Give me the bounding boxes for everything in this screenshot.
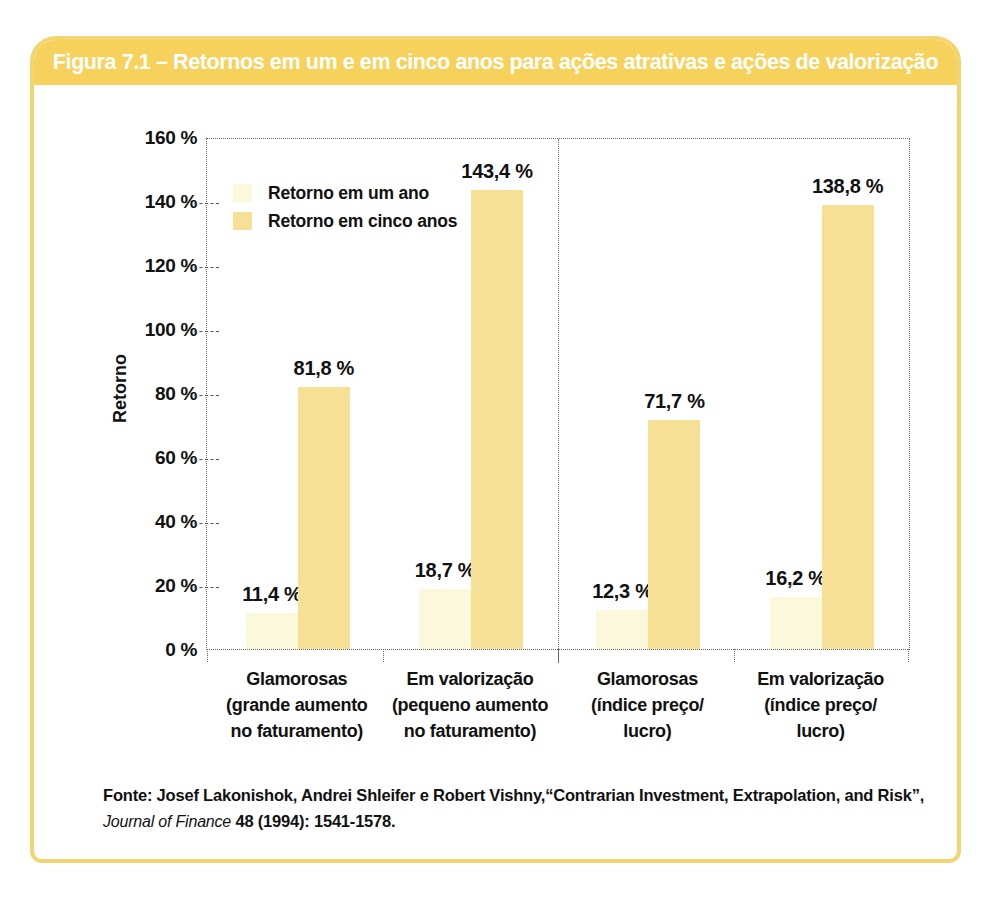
bar-five-years bbox=[648, 420, 700, 649]
bar-value-label: 16,2 % bbox=[765, 567, 825, 590]
category-label-line: Em valorização bbox=[392, 666, 548, 692]
y-tick-mark bbox=[194, 459, 219, 460]
bar-value-label: 11,4 % bbox=[242, 583, 301, 606]
category-label-line: Glamorosas bbox=[591, 666, 704, 692]
y-tick-mark bbox=[194, 395, 219, 396]
bar-one-year bbox=[596, 610, 648, 649]
figure-title: Figura 7.1 – Retornos em um e em cinco a… bbox=[53, 50, 938, 75]
legend-label-one-year: Retorno em um ano bbox=[268, 183, 429, 204]
x-tick-mark bbox=[734, 649, 735, 662]
bar-value-label: 143,4 % bbox=[461, 160, 532, 183]
y-tick-mark bbox=[194, 267, 219, 268]
y-tick-label: 20 % bbox=[117, 574, 197, 598]
x-tick-mark bbox=[383, 649, 384, 662]
category-label: Glamorosas(índice preço/lucro) bbox=[591, 666, 704, 744]
y-tick-mark bbox=[194, 203, 219, 204]
y-tick-label: 60 % bbox=[117, 446, 197, 470]
category-label-line: Glamorosas bbox=[226, 666, 368, 692]
figure-title-banner: Figura 7.1 – Retornos em um e em cinco a… bbox=[34, 40, 957, 85]
category-label-line: no faturamento) bbox=[226, 718, 368, 744]
x-tick-mark bbox=[207, 649, 208, 662]
source-line-2: Journal of Finance 48 (1994): 1541-1578. bbox=[103, 808, 931, 835]
source-note: Fonte: Josef Lakonishok, Andrei Shleifer… bbox=[103, 782, 931, 835]
legend: Retorno em um ano Retorno em cinco anos bbox=[233, 179, 457, 235]
y-tick-mark bbox=[194, 523, 219, 524]
legend-item-one-year: Retorno em um ano bbox=[233, 179, 457, 207]
category-label-line: no faturamento) bbox=[392, 718, 548, 744]
y-tick-label: 0 % bbox=[117, 638, 197, 662]
category-label-line: (índice preço/ bbox=[591, 692, 704, 718]
category-label-line: lucro) bbox=[757, 718, 884, 744]
panel-divider-line bbox=[558, 139, 559, 663]
y-tick-label: 100 % bbox=[117, 318, 197, 342]
bar-value-label: 81,8 % bbox=[294, 357, 354, 380]
legend-swatch-one-year-icon bbox=[233, 184, 252, 202]
source-journal-ref: 48 (1994): 1541-1578. bbox=[231, 812, 395, 830]
bar-value-label: 12,3 % bbox=[592, 580, 652, 603]
bar-five-years bbox=[298, 387, 350, 649]
bar-five-years bbox=[822, 205, 874, 649]
legend-label-five-years: Retorno em cinco anos bbox=[268, 211, 457, 232]
y-tick-label: 80 % bbox=[117, 382, 197, 406]
category-label: Em valorização(pequeno aumentono faturam… bbox=[392, 666, 548, 744]
y-tick-mark bbox=[194, 331, 219, 332]
figure-page: Figura 7.1 – Retornos em um e em cinco a… bbox=[0, 0, 991, 897]
legend-item-five-years: Retorno em cinco anos bbox=[233, 207, 457, 235]
bar-one-year bbox=[770, 597, 822, 649]
bar-five-years bbox=[471, 190, 523, 649]
y-tick-label: 40 % bbox=[117, 510, 197, 534]
y-tick-mark bbox=[194, 587, 219, 588]
source-line-1: Fonte: Josef Lakonishok, Andrei Shleifer… bbox=[103, 782, 931, 808]
x-tick-mark bbox=[558, 649, 559, 662]
bar-value-label: 18,7 % bbox=[415, 559, 475, 582]
category-label-line: Em valorização bbox=[757, 666, 884, 692]
category-label: Glamorosas(grande aumentono faturamento) bbox=[226, 666, 368, 744]
x-tick-mark bbox=[908, 649, 909, 662]
y-tick-label: 140 % bbox=[117, 190, 197, 214]
category-label-line: lucro) bbox=[591, 718, 704, 744]
bar-one-year bbox=[246, 613, 298, 650]
y-tick-label: 120 % bbox=[117, 254, 197, 278]
category-label-line: (pequeno aumento bbox=[392, 692, 548, 718]
source-journal-name: Journal of Finance bbox=[103, 813, 231, 830]
bar-value-label: 138,8 % bbox=[812, 175, 883, 198]
legend-swatch-five-years-icon bbox=[233, 212, 252, 230]
category-label-line: (índice preço/ bbox=[757, 692, 884, 718]
bar-one-year bbox=[419, 589, 471, 649]
category-label-line: (grande aumento bbox=[226, 692, 368, 718]
y-tick-label: 160 % bbox=[117, 126, 197, 150]
category-label: Em valorização(índice preço/lucro) bbox=[757, 666, 884, 744]
bar-value-label: 71,7 % bbox=[644, 390, 704, 413]
